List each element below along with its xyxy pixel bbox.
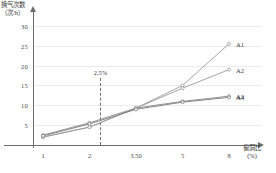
series-line — [43, 97, 229, 135]
data-point-marker — [181, 101, 184, 104]
series-line — [43, 44, 229, 137]
series-plot — [0, 0, 276, 173]
data-point-marker — [181, 87, 184, 90]
data-point-marker — [88, 126, 91, 129]
series-label-a4: A4 — [236, 94, 244, 101]
data-point-marker — [135, 108, 138, 111]
data-point-marker — [228, 96, 231, 99]
data-point-marker — [228, 42, 231, 45]
figure-caption — [30, 166, 270, 173]
chart-container: 换气次数 （次/h） 窗洞比 (%) 51015202530 123.5058 … — [0, 0, 276, 173]
data-point-marker — [88, 122, 91, 125]
series-label-a2: A2 — [236, 66, 244, 73]
series-line — [43, 96, 229, 135]
data-point-marker — [228, 68, 231, 71]
series-line — [43, 70, 229, 137]
series-label-a1: A1 — [236, 40, 244, 47]
data-point-marker — [42, 134, 45, 137]
